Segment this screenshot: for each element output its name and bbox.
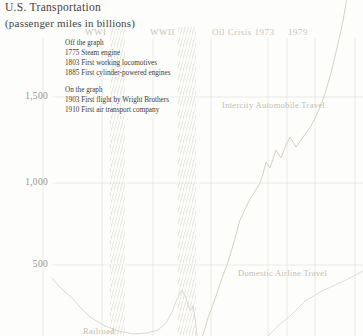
series-label-intercity-automobile-travel: Intercity Automobile Travel (222, 100, 325, 110)
series-label-railroad: Railroad (83, 326, 115, 336)
annotation-item: 1910 First air transport company (65, 105, 169, 115)
transportation-chart: U.S. Transportation (passenger miles in … (0, 0, 363, 336)
era-label-oil-crisis-1973: Oil Crisis 1973 (212, 27, 275, 37)
era-label-1979: 1979 (288, 27, 308, 37)
chart-subtitle: (passenger miles in billions) (5, 17, 135, 29)
annotation-heading: Off the graph (65, 38, 170, 48)
series-label-domestic-airline-travel: Domestic Airline Travel (238, 268, 327, 278)
war-band (178, 27, 196, 336)
series-line-domestic-airline-travel (266, 271, 363, 336)
series-line-intercity-automobile-travel (202, 0, 347, 336)
annotation-item: 1885 First cylinder-powered engines (65, 68, 170, 78)
y-axis-tick-500: 500 (0, 259, 48, 269)
series-line-railroad (52, 278, 199, 336)
chart-title: U.S. Transportation (5, 1, 101, 13)
plot-canvas (0, 0, 363, 336)
annotation-block-on-graph: On the graph 1903 First flight by Wright… (65, 85, 169, 115)
annotation-item: 1903 First flight by Wright Brothers (65, 95, 169, 105)
era-label-wwii: WWII (150, 27, 175, 37)
annotation-item: 1775 Steam engine (65, 48, 170, 58)
annotation-block-off-graph: Off the graph 1775 Steam engine 1803 Fir… (65, 38, 170, 78)
y-axis-tick-1500: 1,500 (0, 91, 48, 101)
annotation-heading: On the graph (65, 85, 169, 95)
annotation-item: 1803 First working locomotives (65, 58, 170, 68)
era-label-wwi: WWI (85, 27, 107, 37)
y-axis-tick-1000: 1,000 (0, 177, 48, 187)
